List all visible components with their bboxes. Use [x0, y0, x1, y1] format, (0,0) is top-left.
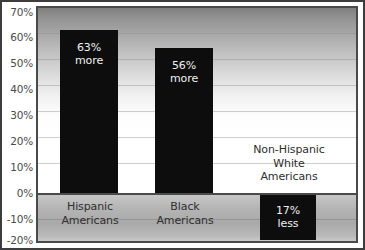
- y-tick-label: 20%: [10, 135, 33, 147]
- bar-value-black-americans: 56% more: [155, 59, 213, 85]
- y-tick-label: 70%: [10, 6, 33, 18]
- bar-value-word: more: [60, 54, 118, 67]
- y-tick-label: 0%: [17, 187, 33, 199]
- y-tick-label: 10%: [10, 161, 33, 173]
- bar-value-number: 17%: [260, 204, 316, 217]
- plot-area: 63% more Hispanic Americans 56% more Bla…: [36, 6, 358, 243]
- category-label-line: White: [234, 157, 344, 171]
- bar-value-hispanic-americans: 63% more: [60, 41, 118, 67]
- category-label-line: Non-Hispanic: [234, 143, 344, 157]
- category-label-non-hispanic-white-americans: Non-Hispanic White Americans: [234, 143, 344, 184]
- category-label-black-americans: Black Americans: [143, 200, 227, 227]
- bar-value-word: less: [260, 217, 316, 230]
- y-axis: 70% 60% 50% 40% 30% 20% 10% 0% -10% -20%: [0, 0, 36, 250]
- bar-value-word: more: [155, 72, 213, 85]
- category-label-hispanic-americans: Hispanic Americans: [48, 200, 132, 227]
- bar-value-number: 63%: [60, 41, 118, 54]
- y-tick-label: 50%: [10, 57, 33, 69]
- y-tick-label: 30%: [10, 109, 33, 121]
- category-label-line: Americans: [234, 170, 344, 184]
- category-label-line: Americans: [48, 214, 132, 228]
- y-tick-label: 60%: [10, 31, 33, 43]
- category-label-line: Hispanic: [48, 200, 132, 214]
- bar-value-non-hispanic-white-americans: 17% less: [260, 204, 316, 230]
- bar-chart: 70% 60% 50% 40% 30% 20% 10% 0% -10% -20%…: [0, 0, 365, 250]
- category-label-line: Americans: [143, 214, 227, 228]
- category-label-line: Black: [143, 200, 227, 214]
- y-tick-label: 40%: [10, 83, 33, 95]
- y-tick-label: -10%: [7, 213, 33, 225]
- y-tick-label: -20%: [7, 234, 33, 246]
- bar-value-number: 56%: [155, 59, 213, 72]
